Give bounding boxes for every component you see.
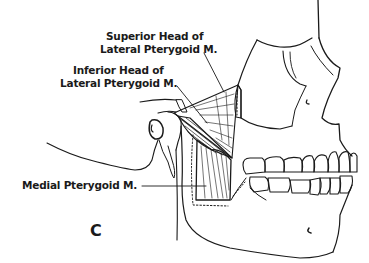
- cranium-posterior-line: [318, 0, 319, 38]
- mental-foramen: [308, 228, 311, 233]
- ramus-inner: [176, 150, 177, 240]
- mandible-anterior: [333, 185, 352, 252]
- lower-teeth: [250, 176, 353, 195]
- styloid-process: [159, 140, 175, 178]
- skull-base-curve: [47, 140, 158, 170]
- label-inferior-head-line2: Lateral Pterygoid M.: [60, 77, 177, 90]
- frontal-nasal-outline: [319, 38, 352, 156]
- orbit-lower: [283, 51, 306, 86]
- ear-canal-inner: [151, 125, 153, 132]
- anatomy-diagram: Superior Head of Lateral Pterygoid M. In…: [0, 0, 369, 263]
- orbit-rim: [257, 38, 312, 47]
- oblique-ridge: [250, 188, 266, 200]
- leader-line-inferior-head: [177, 86, 207, 123]
- orbit-inner: [290, 52, 296, 78]
- zygomatic-process-upper: [140, 99, 176, 102]
- label-superior-head-line2: Lateral Pterygoid M.: [100, 43, 217, 56]
- infraorbital-foramen: [306, 100, 309, 104]
- maxilla-line: [292, 86, 306, 126]
- leader-line-superior-head: [204, 53, 224, 92]
- label-medial-pterygoid: Medial Pterygoid M.: [22, 179, 137, 192]
- label-superior-head-line1: Superior Head of: [106, 30, 203, 43]
- upper-teeth: [243, 152, 357, 174]
- lower-gum-cut: [231, 178, 246, 200]
- label-inferior-head-line1: Inferior Head of: [73, 64, 164, 77]
- zygomatic-outline: [238, 40, 292, 129]
- panel-letter: C: [90, 221, 102, 240]
